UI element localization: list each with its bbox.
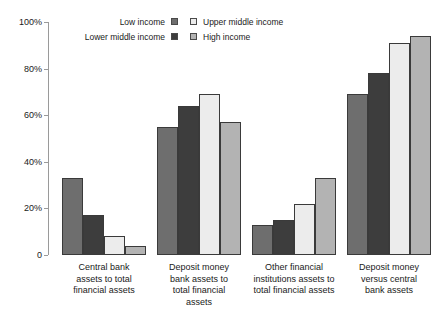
bar bbox=[104, 236, 125, 255]
y-axis-tick-label: 40% bbox=[24, 157, 42, 167]
category-label-line: assets bbox=[149, 297, 249, 309]
y-axis-tick-mark bbox=[44, 69, 48, 70]
category-label-line: bank assets to bbox=[149, 274, 249, 286]
y-axis-tick-mark bbox=[44, 115, 48, 116]
bar bbox=[220, 122, 241, 255]
category-label-line: financial assets bbox=[54, 285, 154, 297]
y-axis-tick-label: 100% bbox=[19, 17, 42, 27]
bar bbox=[157, 127, 178, 255]
category-label: Central bankassets to totalfinancial ass… bbox=[54, 262, 154, 297]
y-axis-tick-mark bbox=[44, 162, 48, 163]
bar-group bbox=[62, 22, 150, 255]
y-axis-tick-label: 80% bbox=[24, 64, 42, 74]
category-label-line: total financial assets bbox=[244, 285, 344, 297]
bar bbox=[315, 178, 336, 255]
bar bbox=[178, 106, 199, 255]
y-axis-tick-label: 20% bbox=[24, 203, 42, 213]
bar bbox=[410, 36, 431, 255]
bar-group bbox=[157, 22, 245, 255]
category-label-line: Deposit money bbox=[149, 262, 249, 274]
bar bbox=[389, 43, 410, 255]
y-axis-tick-mark bbox=[44, 255, 48, 256]
category-label-line: bank assets bbox=[339, 285, 439, 297]
bar-group bbox=[252, 22, 340, 255]
category-label-line: total financial bbox=[149, 285, 249, 297]
y-axis-tick-mark bbox=[44, 208, 48, 209]
bar bbox=[62, 178, 83, 255]
category-label: Deposit moneyversus centralbank assets bbox=[339, 262, 439, 297]
category-label-line: assets to total bbox=[54, 274, 154, 286]
category-label-line: Central bank bbox=[54, 262, 154, 274]
y-axis-tick-label: 0 bbox=[37, 250, 42, 260]
bar bbox=[273, 220, 294, 255]
bar-chart: Low income Lower middle income Upper mid… bbox=[0, 0, 443, 314]
category-label-line: Deposit money bbox=[339, 262, 439, 274]
bar bbox=[125, 246, 146, 255]
bar bbox=[347, 94, 368, 255]
y-axis-line bbox=[48, 22, 49, 255]
bar bbox=[294, 204, 315, 255]
bar bbox=[199, 94, 220, 255]
plot-area: 020%40%60%80%100% bbox=[48, 22, 439, 255]
category-label: Other financialinstitutions assets totot… bbox=[244, 262, 344, 297]
bar bbox=[83, 215, 104, 255]
category-label: Deposit moneybank assets tototal financi… bbox=[149, 262, 249, 308]
category-label-line: Other financial bbox=[244, 262, 344, 274]
bar bbox=[368, 73, 389, 255]
category-label-line: versus central bbox=[339, 274, 439, 286]
y-axis-tick-label: 60% bbox=[24, 110, 42, 120]
bar-group bbox=[347, 22, 435, 255]
bar bbox=[252, 225, 273, 255]
category-label-line: institutions assets to bbox=[244, 274, 344, 286]
y-axis-tick-mark bbox=[44, 22, 48, 23]
